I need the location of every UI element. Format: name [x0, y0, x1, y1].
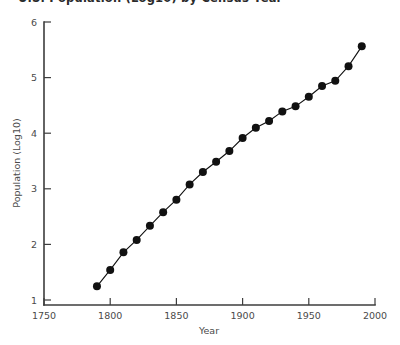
x-tick-label-1900: 1900: [231, 310, 255, 321]
data-point-1900: [239, 134, 247, 142]
data-point-1980: [345, 62, 353, 70]
x-tick-label-2000: 2000: [363, 310, 387, 321]
chart-figure: U.S. Population (Log10) by Census Year 6…: [0, 0, 400, 345]
data-point-1860: [186, 180, 194, 188]
y-tick-label-4: 4: [31, 128, 37, 139]
data-point-1880: [212, 158, 220, 166]
data-point-1930: [278, 107, 286, 115]
y-tick-label-6: 6: [31, 17, 37, 28]
data-point-1850: [172, 196, 180, 204]
data-point-1960: [318, 82, 326, 90]
x-axis-title: Year: [198, 325, 219, 336]
population-log-line-chart: 6 5 4 3 2 1 1750 1800 1850 1900 1950 200…: [0, 0, 400, 345]
y-tick-label-2: 2: [31, 239, 37, 250]
data-point-1830: [146, 222, 154, 230]
data-point-1940: [292, 102, 300, 110]
data-series-us-population: [93, 42, 366, 290]
data-point-1910: [252, 124, 260, 132]
data-point-1810: [119, 248, 127, 256]
y-axis-ticks: [44, 22, 51, 300]
data-point-1800: [106, 266, 114, 274]
y-axis-tick-labels: 6 5 4 3 2 1: [31, 17, 37, 306]
data-point-1950: [305, 93, 313, 101]
x-tick-label-1850: 1850: [164, 310, 188, 321]
y-tick-label-1: 1: [31, 295, 37, 306]
data-point-1970: [331, 77, 339, 85]
y-tick-label-5: 5: [31, 72, 37, 83]
x-axis-ticks: [44, 298, 375, 305]
x-axis-tick-labels: 1750 1800 1850 1900 1950 2000: [32, 310, 387, 321]
y-tick-label-3: 3: [31, 183, 37, 194]
data-point-1820: [133, 236, 141, 244]
x-tick-label-1750: 1750: [32, 310, 56, 321]
data-point-1920: [265, 117, 273, 125]
data-point-1840: [159, 208, 167, 216]
y-axis-title: Population (Log10): [11, 118, 22, 207]
data-point-1790: [93, 282, 101, 290]
data-point-1890: [225, 147, 233, 155]
x-tick-label-1950: 1950: [297, 310, 321, 321]
x-tick-label-1800: 1800: [98, 310, 122, 321]
data-point-1990: [358, 42, 366, 50]
data-point-1870: [199, 168, 207, 176]
